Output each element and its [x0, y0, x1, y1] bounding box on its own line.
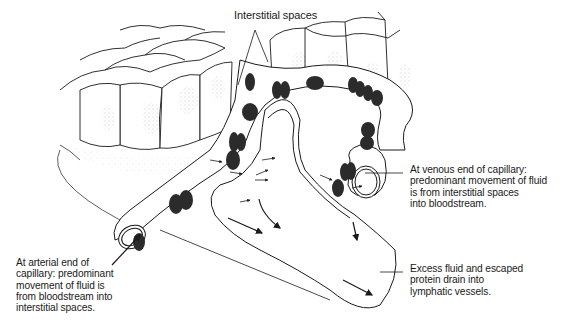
- lymphatic-label: Excess fluid and escaped protein drain i…: [410, 263, 523, 297]
- arterial-end-label: At arterial end of capillary: predominan…: [16, 257, 113, 313]
- tissue-cells-left: [60, 25, 232, 149]
- interstitial-spaces-label: Interstitial spaces: [234, 10, 317, 21]
- venous-end-label: At venous end of capillary: predominant …: [410, 164, 547, 209]
